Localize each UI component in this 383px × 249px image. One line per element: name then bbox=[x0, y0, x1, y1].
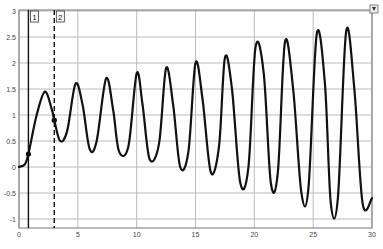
y-tick-label: 1 bbox=[12, 112, 16, 119]
y-tick-label: -0.5 bbox=[4, 190, 16, 197]
cursor-label: 1 bbox=[32, 13, 37, 22]
x-tick-label: 0 bbox=[17, 231, 21, 238]
y-tick-label: 0 bbox=[12, 164, 16, 171]
line-chart: 32.521.510.50-0.5-1 051015202530 12 bbox=[0, 0, 383, 249]
y-tick-label: 1.5 bbox=[6, 86, 16, 93]
x-tick-label: 15 bbox=[192, 231, 200, 238]
data-point-marker bbox=[52, 118, 57, 123]
y-tick-label: 2.5 bbox=[6, 34, 16, 41]
expand-button[interactable] bbox=[370, 5, 378, 13]
x-tick-label: 20 bbox=[250, 231, 258, 238]
y-tick-label: 0.5 bbox=[6, 138, 16, 145]
x-tick-label: 30 bbox=[368, 231, 376, 238]
x-tick-label: 10 bbox=[133, 231, 141, 238]
y-tick-label: 3 bbox=[12, 8, 16, 15]
x-axis-ticks: 051015202530 bbox=[17, 231, 376, 238]
y-tick-label: 2 bbox=[12, 60, 16, 67]
data-markers bbox=[26, 118, 57, 157]
grid-lines bbox=[19, 10, 372, 228]
cursor-lines[interactable]: 12 bbox=[28, 10, 64, 228]
x-tick-label: 5 bbox=[76, 231, 80, 238]
data-point-marker bbox=[26, 151, 31, 156]
cursor-1[interactable]: 1 bbox=[28, 10, 38, 228]
cursor-label: 2 bbox=[58, 13, 63, 22]
x-tick-label: 25 bbox=[309, 231, 317, 238]
y-tick-label: -1 bbox=[10, 216, 16, 223]
y-axis-ticks: 32.521.510.50-0.5-1 bbox=[4, 8, 16, 223]
